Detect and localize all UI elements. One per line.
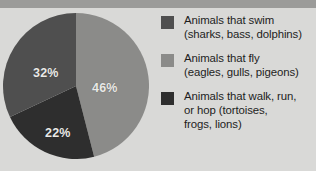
legend-label-swim: Animals that swim (sharks, bass, dolphin… [184, 14, 302, 41]
chart-area: 46% 22% 32% [0, 8, 155, 171]
legend-label-fly-line2: (eagles, gulls, pigeons) [184, 66, 299, 78]
legend-label-swim-line2: (sharks, bass, dolphins) [184, 28, 302, 40]
legend-label-walk-line2: or hop (tortoises, [184, 104, 268, 116]
pie-slice-value-fly: 46% [92, 81, 118, 95]
pie-slice-value-swim: 22% [45, 126, 71, 140]
chart-legend: Animals that swim (sharks, bass, dolphin… [161, 14, 313, 142]
pie-chart-figure: 46% 22% 32% Animals that swim (sharks, b… [0, 0, 316, 171]
legend-item-walk[interactable]: Animals that walk, run, or hop (tortoise… [161, 90, 313, 131]
legend-label-walk-line3: frogs, lions) [184, 118, 242, 130]
legend-item-fly[interactable]: Animals that fly (eagles, gulls, pigeons… [161, 52, 313, 79]
top-band-divider [0, 0, 316, 8]
legend-label-swim-line1: Animals that swim [184, 14, 274, 26]
legend-label-fly-line1: Animals that fly [184, 52, 260, 64]
pie-slices [3, 13, 149, 159]
legend-swatch-icon-walk [161, 92, 174, 105]
legend-label-fly: Animals that fly (eagles, gulls, pigeons… [184, 52, 299, 79]
legend-label-walk: Animals that walk, run, or hop (tortoise… [184, 90, 296, 131]
pie-slice-value-walk: 32% [33, 66, 59, 80]
legend-label-walk-line1: Animals that walk, run, [184, 90, 296, 102]
legend-swatch-icon-fly [161, 54, 174, 67]
legend-item-swim[interactable]: Animals that swim (sharks, bass, dolphin… [161, 14, 313, 41]
legend-swatch-icon-swim [161, 16, 174, 29]
pie-chart-graphic [3, 13, 149, 159]
